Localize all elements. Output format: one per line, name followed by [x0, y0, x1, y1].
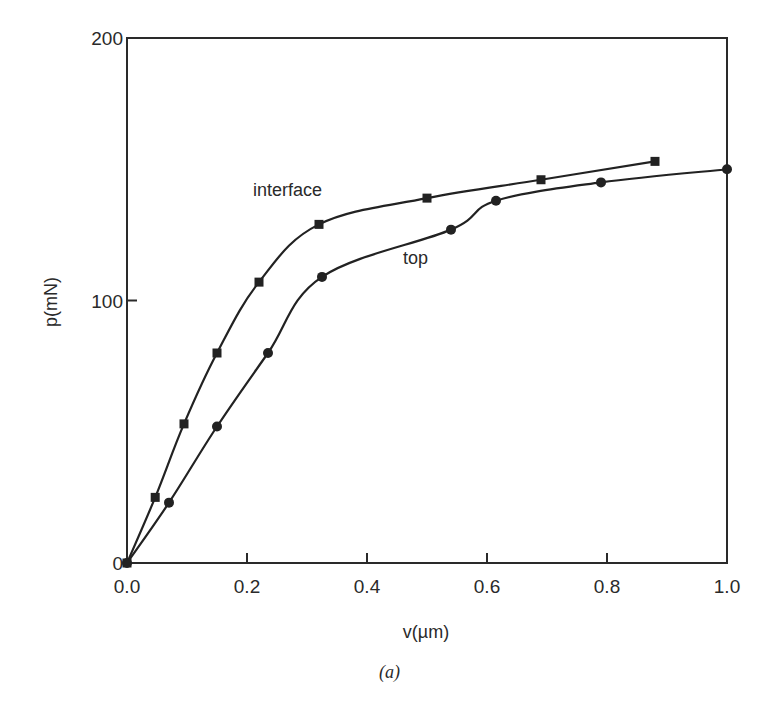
circle-marker: [212, 422, 222, 432]
x-tick-label: 0.4: [354, 576, 381, 597]
circle-marker: [446, 225, 456, 235]
square-marker: [315, 220, 324, 229]
plot-border: [127, 38, 727, 563]
circle-marker: [122, 558, 132, 568]
y-tick-label: 100: [91, 291, 123, 312]
y-tick-label: 200: [91, 28, 123, 49]
square-marker: [180, 419, 189, 428]
circle-marker: [596, 177, 606, 187]
series-labels: interfacetop: [253, 180, 428, 268]
circle-marker: [263, 348, 273, 358]
x-tick-label: 0.0: [114, 576, 140, 597]
square-marker: [423, 194, 432, 203]
series-line: [127, 169, 727, 563]
x-axis-label: v(µm): [403, 622, 449, 642]
square-marker: [213, 349, 222, 358]
x-tick-label: 0.2: [234, 576, 260, 597]
series-layer: [122, 157, 732, 568]
square-marker: [651, 157, 660, 166]
square-marker: [151, 493, 160, 502]
x-axis-ticks: 0.00.20.40.60.81.0: [114, 553, 740, 597]
y-tick-label: 0: [112, 553, 123, 574]
x-tick-label: 0.8: [594, 576, 620, 597]
series-label-interface: interface: [253, 180, 322, 200]
circle-marker: [722, 164, 732, 174]
square-marker: [255, 278, 264, 287]
plot-frame: [127, 38, 727, 563]
circle-marker: [491, 196, 501, 206]
series-interface: [123, 157, 660, 568]
series-line: [127, 161, 655, 563]
series-top: [122, 164, 732, 568]
series-label-top: top: [403, 248, 428, 268]
x-tick-label: 1.0: [714, 576, 740, 597]
square-marker: [537, 175, 546, 184]
x-tick-label: 0.6: [474, 576, 500, 597]
y-axis-ticks: 0100200: [91, 28, 137, 574]
chart: 0.00.20.40.60.81.0 0100200 v(µm) p(mN) i…: [0, 0, 779, 723]
circle-marker: [164, 498, 174, 508]
figure-caption: (a): [0, 662, 779, 683]
y-axis-label: p(mN): [41, 277, 61, 327]
circle-marker: [317, 272, 327, 282]
